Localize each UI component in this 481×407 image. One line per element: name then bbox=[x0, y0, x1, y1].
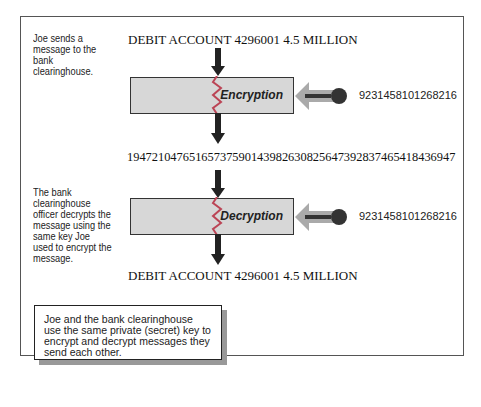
plaintext-top: DEBIT ACCOUNT 4296001 4.5 MILLION bbox=[128, 32, 358, 48]
decrypt-caption: The bank clearinghouse officer decrypts … bbox=[33, 187, 112, 264]
encryption-box: Encryption bbox=[130, 77, 294, 114]
key-icon bbox=[295, 203, 355, 233]
encryption-label: Encryption bbox=[220, 88, 283, 102]
key-value-2: 9231458101268216 bbox=[359, 210, 457, 222]
arrow-down-icon bbox=[211, 170, 225, 200]
arrow-down-icon bbox=[211, 48, 225, 78]
decryption-box: Decryption bbox=[130, 198, 294, 235]
key-icon bbox=[295, 82, 355, 112]
summary-note: Joe and the bank clearinghouse use the s… bbox=[34, 305, 222, 360]
decryption-label: Decryption bbox=[220, 209, 283, 223]
arrow-down-icon bbox=[211, 113, 225, 145]
arrow-down-icon bbox=[211, 234, 225, 266]
key-value-1: 9231458101268216 bbox=[359, 89, 457, 101]
encrypt-caption: Joe sends a message to the bank clearing… bbox=[33, 33, 103, 77]
plaintext-bottom: DEBIT ACCOUNT 4296001 4.5 MILLION bbox=[128, 268, 358, 284]
ciphertext: 1947210476516573759014398263082564739283… bbox=[127, 150, 455, 165]
